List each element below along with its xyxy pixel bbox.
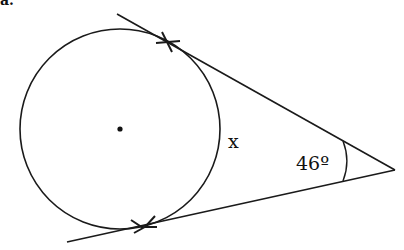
lower-tangent-line bbox=[67, 170, 395, 242]
diagram-canvas bbox=[0, 0, 404, 250]
corner-text: a. bbox=[0, 0, 14, 8]
upper-tangent-mark bbox=[156, 32, 180, 52]
center-point bbox=[117, 126, 122, 131]
angle-label: 46º bbox=[296, 152, 329, 174]
angle-arc bbox=[343, 141, 347, 181]
arc-label-x: x bbox=[228, 130, 239, 152]
upper-tangent-line bbox=[117, 14, 395, 170]
tangent-circle-diagram: a. x 46º bbox=[0, 0, 404, 250]
